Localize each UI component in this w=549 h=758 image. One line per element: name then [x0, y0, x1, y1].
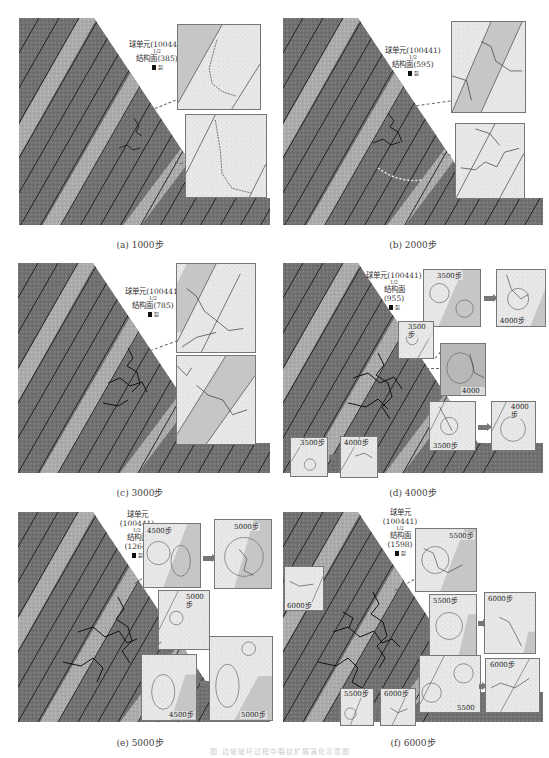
inset-zoom-1	[451, 21, 526, 113]
inset-4000-low: 4000步	[491, 401, 536, 451]
step-label: 3500步	[432, 442, 459, 450]
legend-ball-label: 球单元	[378, 508, 422, 517]
inset-zoom-1	[176, 263, 256, 353]
crack-swatch-icon	[132, 553, 136, 558]
arrow-right-icon	[484, 296, 494, 301]
arrow-right-icon	[203, 556, 213, 561]
inset-zoom-2	[176, 355, 256, 445]
step-label: 4000步	[510, 403, 535, 419]
inset-3500-low: 3500步	[429, 401, 476, 451]
arrow-right-icon	[479, 684, 483, 689]
inset-6000-left: 6000步	[284, 566, 324, 611]
inset-4000-mid: 4000步	[440, 343, 486, 396]
inset-4000-bl: 4000步	[340, 436, 378, 478]
panel-caption: (d) 4000步	[283, 486, 543, 499]
panel-c: 球单元(100441) 1/2 结构面(785) 裂 (c) 3000步	[10, 258, 270, 493]
step-label: 6000步	[489, 661, 516, 669]
panel-caption: (a) 1000步	[10, 238, 270, 251]
step-label: 6000步	[383, 690, 410, 698]
step-label: 4500步	[146, 527, 173, 535]
legend: 球单元(100441) 1/2 结构面(595) 裂	[378, 46, 448, 78]
panel-caption: (c) 3000步	[10, 486, 270, 499]
inset-6000-bl: 6000步	[380, 688, 416, 726]
inset-4000-top: 4000步	[496, 269, 546, 327]
leader-line	[411, 368, 439, 369]
step-label: 5500步	[343, 690, 370, 698]
inset-5000-low: 5000步	[209, 636, 273, 721]
inset-3500-top: 3500步	[423, 269, 481, 327]
panel-caption: (b) 2000步	[283, 238, 543, 251]
step-label: 3500步	[436, 272, 463, 280]
panel-b: 球单元(100441) 1/2 结构面(595) 裂 (b) 2000步	[283, 10, 543, 245]
inset-5000-top: 5000步	[214, 519, 272, 589]
inset-zoom-2	[455, 123, 525, 199]
step-label: 3500步	[299, 439, 326, 447]
legend-joint-count: (955)	[363, 294, 425, 303]
step-label: 5500步	[456, 704, 480, 713]
inset-6000-low: 6000步	[485, 658, 540, 713]
inset-5500-top: 5500步	[415, 528, 477, 592]
crack-swatch-icon	[395, 551, 399, 556]
legend-joint-count: 结构面(595)	[378, 60, 448, 69]
step-label: 4500步	[168, 711, 195, 719]
inset-4500-low: 4500步	[141, 654, 197, 721]
inset-3500-mid: 3500步	[398, 321, 434, 359]
step-label: 5500步	[448, 532, 475, 540]
step-label: 5500步	[432, 597, 459, 605]
inset-5500-mid: 5500步	[429, 594, 477, 656]
crack-swatch-icon	[389, 305, 393, 310]
inset-3500-bl: 3500步	[290, 437, 328, 477]
panel-d: 球单元(100441) 1/2 结构面 (955) 裂 3500步 4000步	[283, 258, 543, 493]
figure-caption: 图 边坡破坏过程中裂纹扩展演化示意图	[30, 746, 530, 756]
step-label: 6000步	[487, 595, 514, 603]
legend: 球单元(100441) 1/2 结构面 (955) 裂	[363, 271, 425, 312]
inset-zoom-2	[185, 114, 267, 198]
step-label: 4000步	[461, 387, 485, 396]
arrow-right-icon	[374, 703, 377, 708]
arrow-right-icon	[329, 455, 333, 460]
inset-zoom-1	[177, 24, 261, 110]
inset-4500-top: 4500步	[143, 523, 201, 588]
step-label: 3500步	[407, 323, 433, 339]
crack-swatch-icon	[408, 71, 412, 76]
step-label: 5000步	[233, 523, 260, 531]
step-label: 5000步	[240, 711, 267, 719]
step-label: 4000步	[343, 439, 370, 447]
step-label: 4000步	[499, 317, 526, 325]
inset-6000-mid: 6000步	[484, 592, 536, 654]
legend-ball-label: 球单元	[115, 510, 159, 519]
step-label: 5000步	[185, 593, 209, 609]
crack-swatch-icon	[148, 312, 152, 317]
panel-a: 球单元(100441) 1/2 结构面(385) 裂 (a) 1000步	[10, 10, 270, 245]
panel-e: 球单元 (100441) 1/2 结构面 (1264) 裂 4500步 5000…	[10, 508, 270, 743]
inset-5500-low: 5500步	[419, 655, 481, 713]
inset-5500-bl: 5500步	[340, 688, 374, 726]
panel-f: 球单元 (100441) 1/2 结构面 (1598) 裂 6000步 5500…	[283, 508, 543, 743]
step-label: 6000步	[286, 602, 313, 610]
arrow-right-icon	[478, 425, 488, 430]
crack-swatch-icon	[152, 65, 156, 70]
legend-joint-label: 结构面	[363, 285, 425, 294]
inset-5000-mid: 5000步	[158, 590, 210, 650]
